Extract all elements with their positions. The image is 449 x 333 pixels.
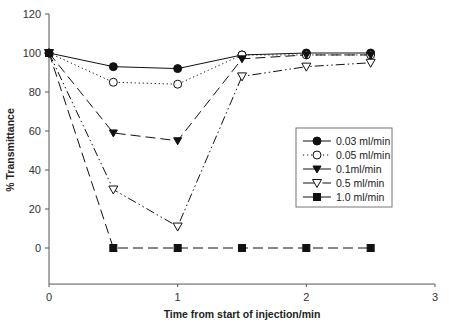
x-tick-label: 2 xyxy=(303,291,309,303)
data-point-marker xyxy=(174,80,182,88)
legend-label: 1.0 ml/min xyxy=(336,191,385,203)
data-point-marker xyxy=(239,245,246,252)
legend-label: 0.05 ml/min xyxy=(336,149,390,161)
data-point-marker xyxy=(174,245,181,252)
y-tick-label: 60 xyxy=(29,125,41,137)
y-tick-label: 100 xyxy=(23,47,41,59)
x-tick-label: 0 xyxy=(46,291,52,303)
data-point-marker xyxy=(109,186,118,194)
x-tick-label: 1 xyxy=(175,291,181,303)
data-point-marker xyxy=(366,59,375,67)
legend: 0.03 ml/min0.05 ml/min0.1ml/min0.5 ml/mi… xyxy=(296,128,392,207)
series-line-1 xyxy=(49,53,371,84)
legend-label: 0.5 ml/min xyxy=(336,177,385,189)
data-point-marker xyxy=(302,63,311,71)
data-point-marker xyxy=(173,223,182,231)
data-point-marker xyxy=(46,50,53,57)
y-tick-label: 80 xyxy=(29,86,41,98)
data-point-marker xyxy=(238,56,246,63)
x-axis-title: Time from start of injection/min xyxy=(164,308,321,320)
y-tick-label: 120 xyxy=(23,8,41,20)
data-point-marker xyxy=(367,245,374,252)
legend-label: 0.03 ml/min xyxy=(336,135,390,147)
legend-item: 0.05 ml/min xyxy=(303,149,390,161)
data-point-marker xyxy=(174,138,182,145)
data-point-marker xyxy=(110,245,117,252)
data-point-marker xyxy=(109,63,117,71)
data-point-marker xyxy=(238,73,247,81)
data-point-marker xyxy=(109,78,117,86)
data-point-marker xyxy=(303,245,310,252)
legend-item: 0.03 ml/min xyxy=(303,135,390,147)
legend-marker-icon xyxy=(313,137,321,145)
legend-label: 0.1ml/min xyxy=(336,163,382,175)
y-axis-title: % Transmittance xyxy=(4,108,16,192)
data-point-marker xyxy=(174,65,182,73)
legend-marker-icon xyxy=(314,194,321,201)
legend-marker-icon xyxy=(313,151,321,159)
y-tick-label: 0 xyxy=(35,242,41,254)
y-tick-label: 20 xyxy=(29,203,41,215)
x-tick-label: 3 xyxy=(432,291,438,303)
y-tick-label: 40 xyxy=(29,164,41,176)
line-chart: 0204060801001200123 0.03 ml/min0.05 ml/m… xyxy=(0,0,449,333)
